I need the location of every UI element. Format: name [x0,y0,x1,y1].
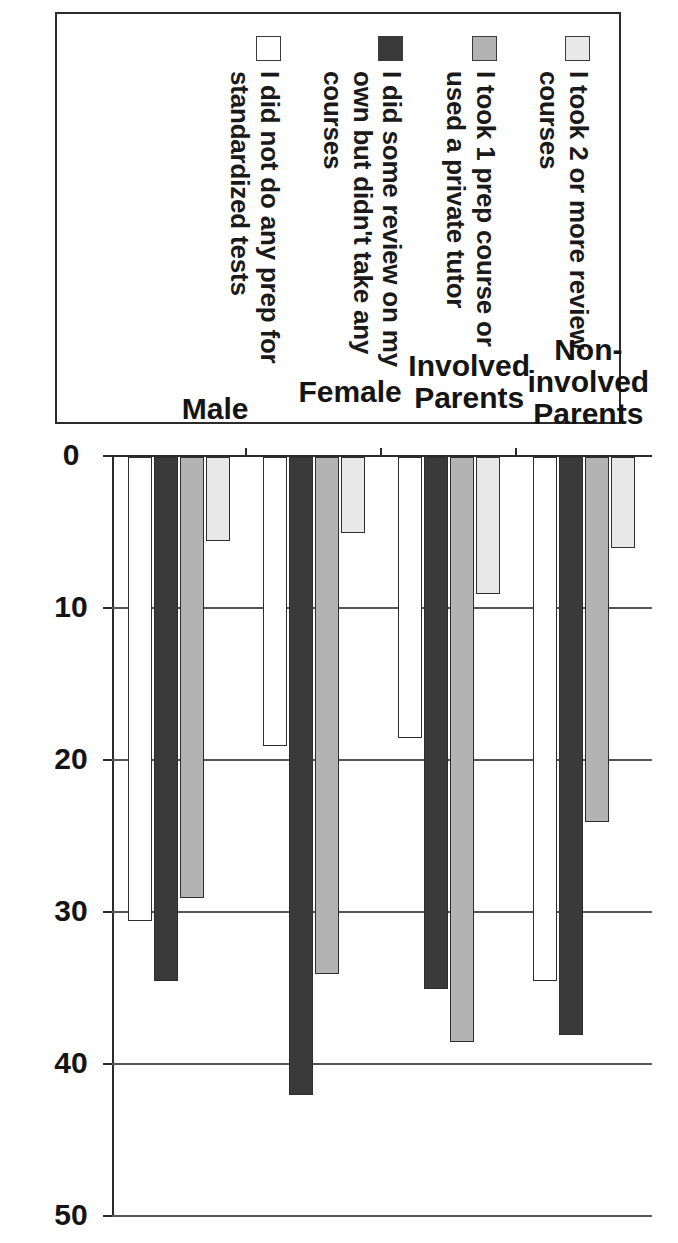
category-label-text: Involved Parents [409,350,531,414]
axis-tick-label: 30 [54,894,88,927]
axis-tick-label: 10 [54,590,88,623]
category-label-text: Non- involved Parents [528,334,650,429]
chart-page: I took 2 or more review coursesI took 1 … [0,0,678,1243]
bar[interactable] [534,457,558,981]
bar[interactable] [342,457,366,533]
bar-row [477,457,501,1215]
bar[interactable] [290,457,314,1095]
category-label-text: Male [182,394,249,426]
axis-tick-label: 40 [54,1046,88,1079]
axis-tick [103,911,112,913]
category-separator [381,448,383,457]
legend-swatch-white [256,36,281,61]
bar[interactable] [612,457,636,548]
bar[interactable] [560,457,584,1035]
legend-item[interactable]: I did not do any prep for standardized t… [224,36,283,412]
bar-group: Male [112,457,247,1215]
axis-tick [103,1215,112,1217]
bar-row [155,457,179,1215]
bar[interactable] [207,457,231,541]
legend-swatch-light-gray [565,36,590,61]
bar-stack [399,457,501,1215]
bar-row [290,457,314,1215]
bar-groups: Non- involved ParentsInvolved ParentsFem… [114,457,652,1215]
category-label: Female [335,340,367,443]
bar-row [560,457,584,1215]
bar-row [425,457,449,1215]
legend-swatch-dark [379,36,404,61]
category-separator [516,448,518,457]
bar-stack [129,457,231,1215]
bar-row [612,457,636,1215]
axis-tick [103,759,112,761]
bar-row [207,457,231,1215]
axis-tick [103,1063,112,1065]
axis-tick-label-text: 40 [54,1046,87,1080]
bar-row [399,457,423,1215]
category-label: Male [200,376,232,443]
bar-stack [534,457,636,1215]
bar-group: Involved Parents [382,457,517,1215]
axis-tick [103,455,112,457]
bar[interactable] [155,457,179,981]
category-label: Non- involved Parents [541,321,636,443]
bar-group: Non- involved Parents [517,457,652,1215]
legend-item-label: I did not do any prep for standardized t… [224,71,283,401]
bar[interactable] [425,457,449,989]
bar-row [586,457,610,1215]
bar-row [534,457,558,1215]
axis-tick [103,607,112,609]
axis-tick-label-text: 50 [54,1198,87,1232]
bar-group: Female [247,457,382,1215]
bar[interactable] [477,457,501,594]
bar-row [342,457,366,1215]
bar-stack [264,457,366,1215]
gridline [112,1215,652,1217]
bar[interactable] [129,457,153,921]
axis-tick-label: 20 [54,742,88,775]
axis-tick-label-text: 30 [54,894,87,928]
bar[interactable] [451,457,475,1042]
bar-row [264,457,288,1215]
category-label: Involved Parents [438,321,502,443]
plot-area: 01020304050 Non- involved ParentsInvolve… [112,455,652,1215]
bar[interactable] [264,457,288,746]
bar[interactable] [316,457,340,974]
rotated-figure: I took 2 or more review coursesI took 1 … [0,0,678,1243]
legend-swatch-medium-gray [472,36,497,61]
bar-row [316,457,340,1215]
axis-tick-label: 0 [54,447,88,464]
axis-tick-label-text: 0 [63,438,80,472]
bar[interactable] [181,457,205,898]
axis-tick-label: 50 [54,1198,88,1231]
category-label-text: Female [299,375,402,407]
axis-tick-label-text: 10 [54,590,87,624]
bar-row [129,457,153,1215]
axis-tick-label-text: 20 [54,742,87,776]
category-separator [246,448,248,457]
bar[interactable] [399,457,423,738]
bar[interactable] [586,457,610,822]
bar-row [451,457,475,1215]
bar-row [181,457,205,1215]
